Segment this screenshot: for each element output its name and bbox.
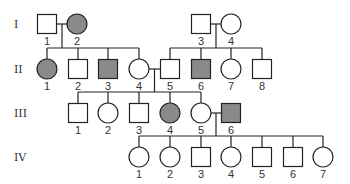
- individual-IV-6: 6: [284, 148, 303, 181]
- individual-number: 4: [136, 80, 142, 92]
- individual-number: 5: [167, 80, 173, 92]
- individual-number: 4: [228, 35, 234, 47]
- individual-number: 2: [74, 35, 80, 47]
- female-circle-icon: [98, 103, 118, 123]
- individual-number: 5: [259, 168, 265, 180]
- generation-labels: IIIIIIIV: [14, 18, 27, 164]
- individual-II-5: 5: [161, 60, 180, 93]
- male-square-icon: [284, 148, 303, 167]
- female-circle-icon: [313, 147, 333, 167]
- affected-female-circle-icon: [67, 14, 87, 34]
- affected-male-square-icon: [192, 60, 211, 79]
- individual-III-2: 2: [98, 103, 118, 136]
- individual-number: 2: [75, 80, 81, 92]
- individual-number: 7: [320, 168, 326, 180]
- individual-number: 1: [44, 80, 50, 92]
- male-square-icon: [69, 104, 88, 123]
- affected-female-circle-icon: [37, 59, 57, 79]
- generation-label: IV: [14, 151, 27, 164]
- individual-I-3: 3: [192, 15, 211, 48]
- individual-number: 1: [75, 124, 81, 136]
- individual-number: 5: [198, 124, 204, 136]
- individual-IV-2: 2: [160, 147, 180, 180]
- individual-IV-4: 4: [221, 147, 241, 180]
- affected-male-square-icon: [99, 60, 118, 79]
- individual-number: 6: [198, 80, 204, 92]
- individual-I-2: 2: [67, 14, 87, 47]
- female-circle-icon: [160, 147, 180, 167]
- individual-number: 3: [198, 35, 204, 47]
- individual-III-1: 1: [69, 104, 88, 137]
- individual-II-3: 3: [99, 60, 118, 93]
- female-circle-icon: [221, 147, 241, 167]
- individual-II-8: 8: [253, 60, 272, 93]
- individual-II-6: 6: [192, 60, 211, 93]
- male-square-icon: [69, 60, 88, 79]
- individual-IV-1: 1: [129, 147, 149, 180]
- individual-number: 3: [105, 80, 111, 92]
- generation-label: II: [14, 63, 23, 76]
- relationship-lines: [47, 24, 323, 147]
- generation-label: III: [14, 107, 27, 120]
- individual-number: 1: [44, 35, 50, 47]
- individual-IV-3: 3: [192, 148, 211, 181]
- individual-number: 3: [136, 124, 142, 136]
- male-square-icon: [38, 15, 57, 34]
- male-square-icon: [161, 60, 180, 79]
- individual-III-6: 6: [222, 104, 241, 137]
- individual-I-1: 1: [38, 15, 57, 48]
- individual-number: 4: [228, 168, 234, 180]
- female-circle-icon: [191, 103, 211, 123]
- individual-number: 2: [105, 124, 111, 136]
- individual-number: 3: [198, 168, 204, 180]
- individual-number: 8: [259, 80, 265, 92]
- male-square-icon: [253, 60, 272, 79]
- pedigree-diagram: IIIIIIIV 1234123456781234561234567: [0, 0, 350, 184]
- female-circle-icon: [129, 59, 149, 79]
- male-square-icon: [192, 148, 211, 167]
- affected-male-square-icon: [222, 104, 241, 123]
- individual-II-4: 4: [129, 59, 149, 92]
- individual-III-5: 5: [191, 103, 211, 136]
- individual-number: 7: [228, 80, 234, 92]
- individual-II-2: 2: [69, 60, 88, 93]
- male-square-icon: [253, 148, 272, 167]
- generation-label: I: [14, 18, 18, 31]
- individual-I-4: 4: [221, 14, 241, 47]
- individual-number: 6: [290, 168, 296, 180]
- individual-II-7: 7: [221, 59, 241, 92]
- female-circle-icon: [129, 147, 149, 167]
- individual-III-3: 3: [130, 104, 149, 137]
- individual-number: 4: [167, 124, 173, 136]
- individual-II-1: 1: [37, 59, 57, 92]
- female-circle-icon: [221, 14, 241, 34]
- individual-IV-5: 5: [253, 148, 272, 181]
- male-square-icon: [192, 15, 211, 34]
- individual-number: 6: [228, 124, 234, 136]
- individuals: 1234123456781234561234567: [37, 14, 333, 180]
- individual-number: 2: [167, 168, 173, 180]
- individual-number: 1: [136, 168, 142, 180]
- individual-IV-7: 7: [313, 147, 333, 180]
- individual-III-4: 4: [160, 103, 180, 136]
- female-circle-icon: [221, 59, 241, 79]
- affected-female-circle-icon: [160, 103, 180, 123]
- male-square-icon: [130, 104, 149, 123]
